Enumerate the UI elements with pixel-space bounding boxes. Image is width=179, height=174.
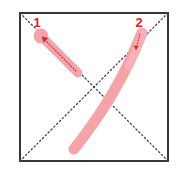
stroke-number-label-1: 1	[33, 15, 40, 30]
stroke-order-diagram: 1 2	[0, 0, 179, 174]
stroke-number-label-2: 2	[135, 15, 142, 30]
